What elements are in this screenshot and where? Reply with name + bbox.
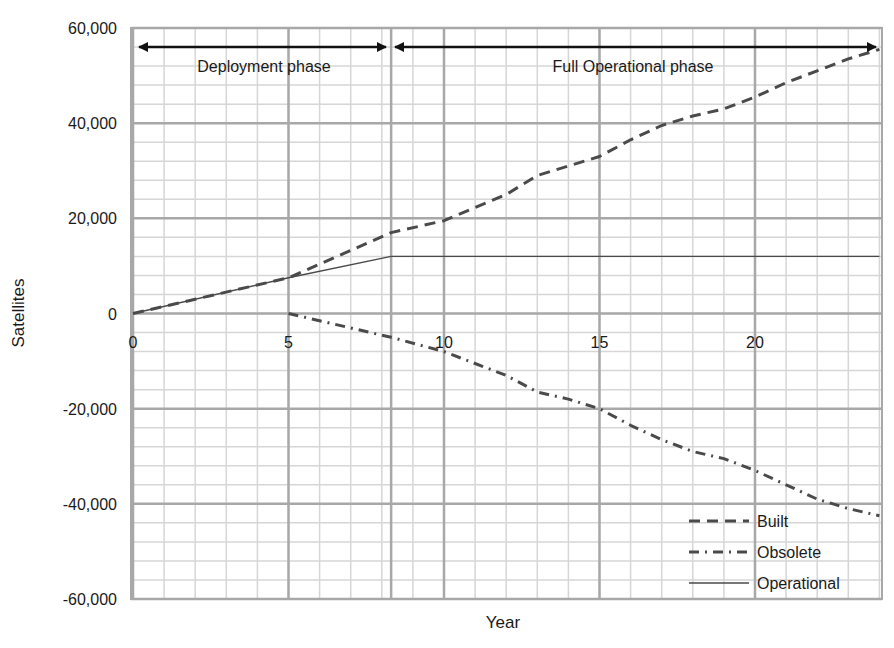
x-tick-label: 5 xyxy=(284,334,293,351)
y-axis-label: Satellites xyxy=(9,279,28,348)
phase-label-deployment: Deployment phase xyxy=(197,58,331,75)
y-tick-label: -20,000 xyxy=(63,401,117,418)
legend-label-obsolete: Obsolete xyxy=(757,544,821,561)
y-tick-label: 40,000 xyxy=(68,115,117,132)
y-tick-label: 60,000 xyxy=(68,20,117,37)
x-axis-tick-labels: 05101520 xyxy=(129,334,764,351)
legend-label-built: Built xyxy=(757,513,789,530)
x-tick-label: 10 xyxy=(435,334,453,351)
y-tick-label: -40,000 xyxy=(63,496,117,513)
x-tick-label: 15 xyxy=(591,334,609,351)
y-tick-label: 0 xyxy=(108,306,117,323)
y-tick-label: -60,000 xyxy=(63,591,117,608)
y-tick-label: 20,000 xyxy=(68,210,117,227)
legend-label-operational: Operational xyxy=(757,575,840,592)
y-axis-tick-labels: 60,00040,00020,0000-20,000-40,000-60,000 xyxy=(63,20,117,608)
satellites-line-chart: 60,00040,00020,0000-20,000-40,000-60,000… xyxy=(0,0,894,648)
phase-label-full-operational: Full Operational phase xyxy=(553,58,714,75)
x-axis-label: Year xyxy=(486,613,521,632)
phase-annotations: Deployment phaseFull Operational phase xyxy=(139,47,876,75)
x-tick-label: 20 xyxy=(746,334,764,351)
x-tick-label: 0 xyxy=(129,334,138,351)
